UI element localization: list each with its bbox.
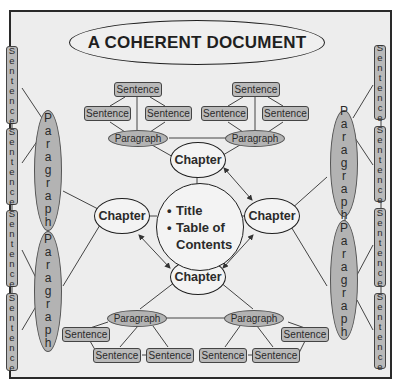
sentence-top-left-1: Sentence [114,82,162,97]
sentence-top-left-2: Sentence [84,106,131,121]
vertical-letters: Sentence [377,125,383,205]
sentence-bottom-4: Sentence [199,348,247,363]
paragraph-bottom-right: Paragraph [224,310,284,327]
paragraph-right-top: Paragraph [330,110,358,217]
vertical-letters: Sentence [9,46,15,126]
chapter-right: Chapter [244,198,300,234]
vertical-letters: Paragraph [44,112,52,229]
vertical-letters: Paragraph [44,233,52,350]
vertical-letters: Sentence [9,293,15,373]
sentence-bottom-2: Sentence [93,348,141,363]
vertical-letters: Sentence [9,209,15,289]
sentence-left-3: Sentence [6,210,18,287]
paragraph-left-top: Paragraph [34,110,62,231]
sentence-left-4: Sentence [6,293,18,371]
center-item-title: Title [176,202,203,219]
sentence-bottom-3: Sentence [146,348,194,363]
paragraph-right-bottom: Paragraph [330,220,358,340]
sentence-top-right-3: Sentence [262,106,309,121]
sentence-top-right-1: Sentence [232,82,280,97]
sentence-right-1: Sentence [374,45,386,120]
sentence-right-3: Sentence [374,208,386,287]
paragraph-left-bottom: Paragraph [34,231,62,352]
paragraph-top-left: Paragraph [108,130,168,147]
vertical-letters: Sentence [9,127,15,207]
sentence-top-left-3: Sentence [145,106,192,121]
center-title-toc: •Title •Table of Contents [156,183,244,271]
center-item-toc-2: Contents [176,236,232,253]
document-title: A COHERENT DOCUMENT [69,20,325,65]
sentence-bottom-1: Sentence [62,327,110,342]
chapter-left: Chapter [94,198,150,234]
sentence-bottom-5: Sentence [252,348,300,363]
vertical-letters: Sentence [377,292,383,372]
bullet-icon: • [167,202,176,219]
sentence-left-2: Sentence [6,128,18,205]
sentence-right-2: Sentence [374,126,386,202]
vertical-letters: Sentence [377,43,383,123]
vertical-letters: Paragraph [340,105,348,222]
sentence-left-1: Sentence [6,46,18,124]
chapter-top: Chapter [170,142,226,178]
sentence-bottom-6: Sentence [281,327,329,342]
paragraph-bottom-left: Paragraph [107,310,167,327]
vertical-letters: Paragraph [340,222,348,339]
sentence-top-right-2: Sentence [201,106,248,121]
paragraph-top-right: Paragraph [225,130,285,147]
vertical-letters: Sentence [377,208,383,288]
bullet-icon: • [167,219,176,236]
sentence-right-4: Sentence [374,293,386,369]
center-item-toc-1: Table of [176,219,225,236]
